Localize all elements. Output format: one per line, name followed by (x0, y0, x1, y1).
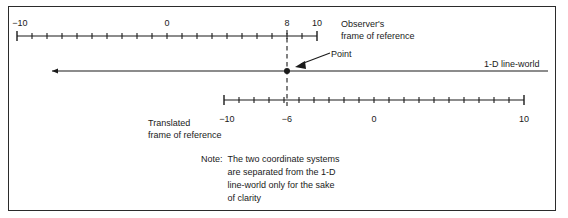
figure-container: −10 0 8 10 Observer's frame of reference… (0, 0, 568, 218)
point-leader-line (301, 53, 330, 64)
point-leader-arrowhead (295, 61, 306, 69)
note-line-2: are separated from the 1-D (228, 166, 340, 179)
translated-axis-group (224, 95, 524, 105)
line-world-left-arrowhead (52, 69, 58, 74)
point-label: Point (331, 48, 352, 60)
point-leader-group (295, 53, 330, 69)
line-world-label: 1-D line-world (484, 58, 540, 70)
translated-tick-label-10: 10 (519, 113, 529, 125)
observer-tick-label-minus10: −10 (12, 17, 27, 29)
observer-frame-caption: Observer's frame of reference (341, 18, 415, 42)
observer-axis-ticks (17, 31, 317, 41)
observer-tick-label-0: 0 (164, 17, 169, 29)
observer-frame-caption-line1: Observer's (341, 18, 415, 30)
translated-frame-caption-line2: frame of reference (148, 129, 222, 141)
translated-axis-ticks (224, 95, 524, 105)
observer-frame-caption-line2: frame of reference (341, 30, 415, 42)
note-line-1: The two coordinate systems (228, 153, 340, 166)
note-line-3: line-world only for the sake (228, 179, 340, 192)
observer-tick-label-8: 8 (284, 17, 289, 29)
translated-frame-caption-line1: Translated (148, 117, 222, 129)
note-block: Note: The two coordinate systems are sep… (201, 153, 340, 205)
note-line-4: of clarity (228, 192, 340, 205)
note-body: The two coordinate systems are separated… (228, 153, 340, 205)
line-world-group (52, 69, 548, 74)
translated-tick-label-minus6: −6 (282, 113, 292, 125)
observer-axis-group (17, 31, 317, 41)
translated-tick-label-minus10: −10 (219, 113, 234, 125)
point-marker (284, 68, 290, 74)
translated-frame-caption: Translated frame of reference (148, 117, 222, 141)
translated-tick-label-0: 0 (371, 113, 376, 125)
note-prefix: Note: (201, 153, 223, 205)
observer-tick-label-10: 10 (312, 17, 322, 29)
